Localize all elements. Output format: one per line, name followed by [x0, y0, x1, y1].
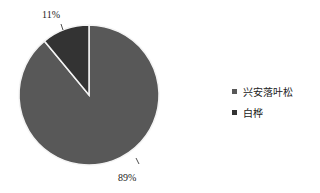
- legend: 兴安落叶松 白桦: [232, 81, 293, 123]
- legend-label: 白桦: [243, 105, 263, 120]
- leader-line-larch: [136, 158, 139, 164]
- leader-line-birch: [61, 24, 63, 30]
- legend-item-birch: 白桦: [232, 102, 293, 123]
- legend-swatch-icon: [232, 89, 237, 94]
- legend-label: 兴安落叶松: [243, 84, 293, 99]
- legend-swatch-icon: [232, 110, 237, 115]
- legend-item-larch: 兴安落叶松: [232, 81, 293, 102]
- slice-label-larch: 89%: [118, 172, 136, 183]
- slice-label-birch: 11%: [42, 9, 60, 20]
